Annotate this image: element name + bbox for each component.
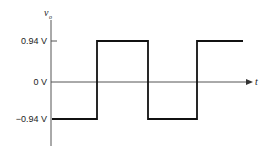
- square-waveform: [52, 41, 243, 119]
- level-zero-label: 0 V: [33, 77, 47, 87]
- x-axis-label: t: [255, 76, 258, 87]
- square-wave-diagram: v o t 0.94 V 0 V −0.94 V: [0, 0, 266, 151]
- x-axis-arrow-icon: [246, 79, 253, 85]
- level-high-label: 0.94 V: [21, 36, 47, 46]
- level-low-label: −0.94 V: [16, 114, 47, 124]
- y-axis-subscript: o: [49, 14, 52, 20]
